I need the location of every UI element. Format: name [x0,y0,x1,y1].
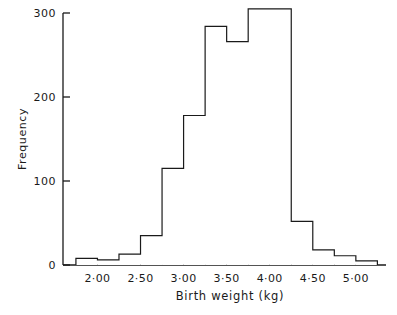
y-tick-label-100: 100 [34,175,57,188]
bar-4.75-5.00 [334,256,356,265]
histogram-figure: 0100200300 2·002·503·003·504·004·505·00 … [0,0,397,315]
bar-3.00-3.25 [184,115,206,265]
x-tick-label-3: 3·00 [171,272,197,285]
x-tick-label-4: 4·00 [257,272,283,285]
x-tick-label-2-5: 2·50 [127,272,153,285]
bar-3.75-4.00 [248,9,270,265]
bar-3.25-3.50 [205,26,227,265]
bar-5.00-5.25 [356,261,378,265]
bar-4.50-4.75 [313,250,335,265]
y-tick-label-200: 200 [34,91,57,104]
y-tick-label-0: 0 [49,259,57,272]
x-tick-label-5: 5·00 [343,272,369,285]
x-axis-title: Birth weight (kg) [176,289,285,303]
bar-2.25-2.50 [119,254,141,265]
bar-3.50-3.75 [227,42,249,265]
bar-4.00-4.25 [270,9,292,265]
x-tick-label-4-5: 4·50 [300,272,326,285]
y-tick-label-300: 300 [34,7,57,20]
birth-weight-histogram: 0100200300 2·002·503·003·504·004·505·00 … [0,0,397,315]
x-tick-label-2: 2·00 [84,272,110,285]
bar-4.25-4.50 [291,221,313,265]
x-tick-label-3-5: 3·50 [214,272,240,285]
bar-1.75-2.00 [76,258,98,265]
y-axis-title: Frequency [16,108,29,170]
bar-2.75-3.00 [162,168,184,265]
bar-2.00-2.25 [97,260,119,265]
bar-2.50-2.75 [141,236,163,265]
